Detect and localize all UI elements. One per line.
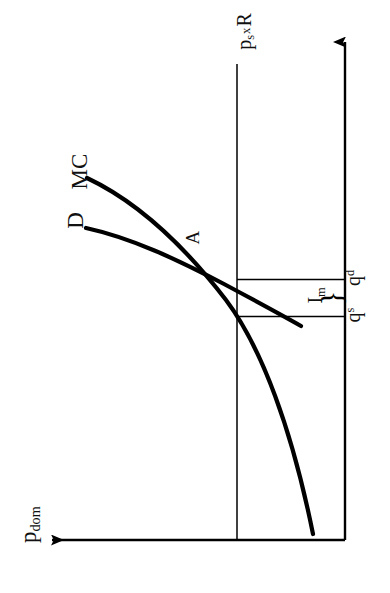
d-curve-label: D — [64, 195, 87, 247]
d-curve-label-text: D — [63, 212, 88, 229]
mc-curve-label-text: MC — [67, 154, 92, 190]
world-price-label-sub: s — [243, 35, 257, 40]
price-axis-label-main: p — [16, 532, 41, 544]
imports-label: Im — [305, 276, 328, 314]
point-a-label-text: A — [182, 231, 203, 245]
point-a-label: A — [183, 224, 202, 252]
qd-label-sup: d — [343, 270, 357, 276]
world-price-label-times: x — [239, 27, 253, 35]
figure-canvas: psxR MC D A qd qs } Im pdom — [0, 0, 390, 593]
imports-label-sub: m — [314, 287, 328, 297]
world-price-label-tail: R — [233, 13, 255, 26]
mc-curve-label: MC — [68, 146, 91, 198]
price-axis-label: pdom — [17, 487, 42, 563]
price-axis-label-sub: dom — [27, 506, 43, 531]
world-price-label: psxR — [234, 1, 257, 61]
imports-label-main: I — [304, 297, 326, 304]
world-price-label-main: p — [233, 40, 255, 50]
